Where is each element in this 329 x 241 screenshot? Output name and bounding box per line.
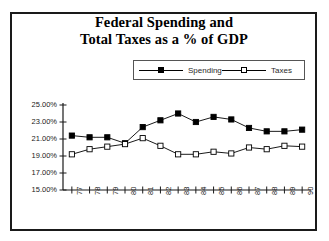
chart-plot-area: 25.00%23.00%21.00%19.00%17.00%15.00% 777… xyxy=(0,0,329,241)
x-axis-tick-label: 77 xyxy=(75,187,84,195)
x-axis-tick-label: 83 xyxy=(182,187,191,195)
x-axis-tick-label: 80 xyxy=(129,187,138,195)
x-axis-tick-label: 90 xyxy=(306,187,315,195)
y-axis-tick-label: 15.00% xyxy=(19,185,57,194)
x-axis-tick-label: 89 xyxy=(288,187,297,195)
chart-series-layer xyxy=(69,111,304,157)
x-axis-tick-label: 87 xyxy=(253,187,262,195)
chart-figure: Federal Spending and Total Taxes as a % … xyxy=(0,0,329,241)
y-axis-tick-label: 25.00% xyxy=(19,100,57,109)
x-axis-tick-label: 88 xyxy=(270,187,279,195)
y-axis-tick-label: 21.00% xyxy=(19,134,57,143)
y-axis-tick-label: 17.00% xyxy=(19,168,57,177)
y-axis-tick-label: 23.00% xyxy=(19,117,57,126)
x-axis-tick-label: 82 xyxy=(164,187,173,195)
x-axis-tick-label: 85 xyxy=(217,187,226,195)
x-axis-tick-label: 81 xyxy=(146,187,155,195)
y-axis-tick-label: 19.00% xyxy=(19,151,57,160)
x-axis-tick-label: 79 xyxy=(111,187,120,195)
x-axis-tick-label: 78 xyxy=(93,187,102,195)
x-axis-tick-label: 86 xyxy=(235,187,244,195)
x-axis-tick-label: 84 xyxy=(199,187,208,195)
